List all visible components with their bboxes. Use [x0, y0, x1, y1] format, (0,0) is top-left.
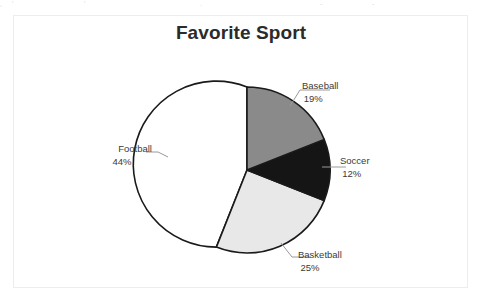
pie-label-basketball: Basketball 25%: [298, 249, 342, 274]
pie-label-football-name: Football: [92, 143, 152, 156]
pie-label-baseball-name: Baseball: [302, 80, 338, 93]
pie-label-football: Football 44%: [92, 143, 152, 168]
pie-label-football-percent: 44%: [92, 156, 152, 169]
pie-chart: [0, 0, 482, 302]
pie-label-soccer: Soccer 12%: [340, 155, 370, 180]
pie-label-soccer-percent: 12%: [340, 168, 370, 181]
pie-label-basketball-percent: 25%: [298, 262, 342, 275]
pie-label-basketball-name: Basketball: [298, 249, 342, 262]
pie-label-soccer-name: Soccer: [340, 155, 370, 168]
pie-label-baseball-percent: 19%: [302, 93, 338, 106]
pie-label-baseball: Baseball 19%: [302, 80, 338, 105]
